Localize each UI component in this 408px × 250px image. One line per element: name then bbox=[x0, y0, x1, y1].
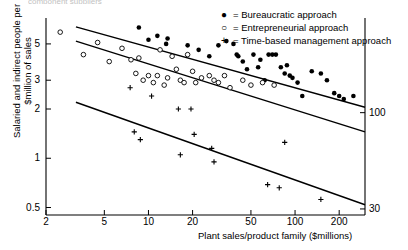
data-point-filled-circle bbox=[224, 39, 229, 44]
data-point-plus bbox=[192, 132, 197, 137]
data-point-plus bbox=[138, 137, 143, 142]
data-point-plus bbox=[277, 185, 282, 190]
data-point-open-circle bbox=[182, 80, 187, 85]
data-point-plus bbox=[211, 159, 216, 164]
data-point-filled-circle bbox=[155, 34, 160, 39]
data-point-open-circle bbox=[272, 83, 277, 88]
data-point-open-circle bbox=[158, 48, 163, 53]
data-point-plus bbox=[128, 85, 133, 90]
data-point-plus bbox=[282, 140, 287, 145]
data-point-filled-circle bbox=[245, 67, 250, 72]
data-point-open-circle bbox=[185, 52, 190, 57]
data-point-plus bbox=[176, 106, 181, 111]
data-point-filled-circle bbox=[251, 52, 256, 57]
data-point-open-circle bbox=[151, 80, 156, 85]
data-point-open-circle bbox=[165, 76, 170, 81]
data-point-filled-circle bbox=[279, 65, 284, 70]
data-point-filled-circle bbox=[185, 43, 190, 48]
data-point-open-circle bbox=[95, 40, 100, 45]
data-point-filled-circle bbox=[216, 43, 221, 48]
data-point-open-circle bbox=[137, 56, 142, 61]
data-point-filled-circle bbox=[351, 94, 356, 99]
data-point-plus bbox=[188, 106, 193, 111]
data-point-open-circle bbox=[120, 46, 125, 51]
data-point-filled-circle bbox=[164, 42, 169, 47]
data-point-open-circle bbox=[249, 83, 254, 88]
data-point-open-circle bbox=[170, 54, 175, 59]
data-point-filled-circle bbox=[256, 65, 261, 70]
bureaucratic-trend bbox=[76, 27, 365, 107]
data-point-filled-circle bbox=[231, 42, 236, 47]
data-point-open-circle bbox=[141, 78, 146, 83]
plot-canvas bbox=[0, 0, 408, 250]
data-point-open-circle bbox=[155, 73, 160, 78]
data-point-filled-circle bbox=[332, 91, 337, 96]
data-point-open-circle bbox=[162, 83, 167, 88]
data-point-open-circle bbox=[240, 78, 245, 83]
data-point-filled-circle bbox=[319, 71, 324, 76]
data-point-open-circle bbox=[190, 69, 195, 74]
data-point-plus bbox=[132, 129, 137, 134]
data-point-open-circle bbox=[134, 71, 139, 76]
data-point-filled-circle bbox=[146, 37, 151, 42]
data-point-open-circle bbox=[58, 30, 63, 35]
data-point-plus bbox=[149, 93, 154, 98]
data-point-open-circle bbox=[222, 73, 227, 78]
data-point-filled-circle bbox=[290, 76, 295, 81]
data-point-open-circle bbox=[81, 52, 86, 57]
data-point-filled-circle bbox=[300, 94, 305, 99]
data-point-open-circle bbox=[216, 80, 221, 85]
data-point-open-circle bbox=[260, 80, 265, 85]
data-point-filled-circle bbox=[137, 25, 142, 30]
data-point-filled-circle bbox=[236, 54, 241, 59]
data-point-open-circle bbox=[193, 80, 198, 85]
data-point-open-circle bbox=[146, 73, 151, 78]
data-point-filled-circle bbox=[240, 59, 245, 64]
data-point-filled-circle bbox=[337, 94, 342, 99]
data-point-plus bbox=[265, 182, 270, 187]
data-point-filled-circle bbox=[207, 54, 212, 59]
data-point-filled-circle bbox=[309, 69, 314, 74]
data-point-filled-circle bbox=[325, 78, 330, 83]
data-point-open-circle bbox=[174, 67, 179, 72]
data-point-filled-circle bbox=[341, 97, 346, 102]
data-point-open-circle bbox=[199, 76, 204, 81]
data-point-filled-circle bbox=[282, 71, 287, 76]
data-point-open-circle bbox=[212, 78, 217, 83]
data-point-plus bbox=[318, 197, 323, 202]
data-point-open-circle bbox=[129, 57, 134, 62]
data-point-filled-circle bbox=[196, 48, 201, 53]
data-point-open-circle bbox=[107, 59, 112, 64]
data-point-filled-circle bbox=[285, 63, 290, 68]
data-point-open-circle bbox=[228, 85, 233, 90]
data-point-filled-circle bbox=[258, 57, 263, 62]
data-point-filled-circle bbox=[295, 80, 300, 85]
data-point-open-circle bbox=[207, 73, 212, 78]
chart-figure: component suppliers Salaried and indirec… bbox=[0, 0, 408, 250]
data-point-filled-circle bbox=[274, 52, 279, 57]
data-point-plus bbox=[178, 152, 183, 157]
data-point-filled-circle bbox=[165, 36, 170, 41]
